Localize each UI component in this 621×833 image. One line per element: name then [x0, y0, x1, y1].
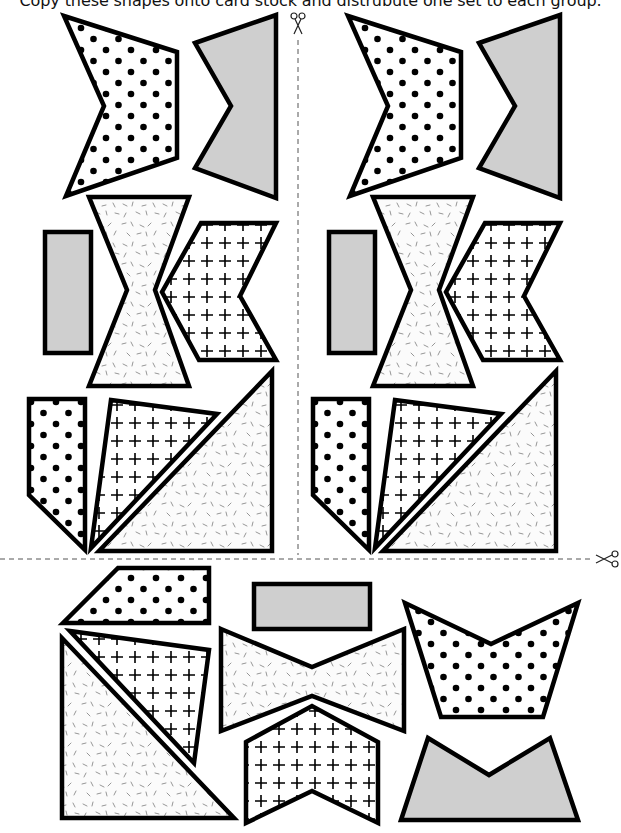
scissors-icon — [291, 13, 305, 34]
cross-chevron[interactable] — [162, 223, 276, 360]
cutout-sheet — [0, 0, 621, 833]
gray-arrow[interactable] — [479, 15, 560, 198]
dotted-pentagon[interactable] — [29, 399, 85, 550]
gray-arrow[interactable] — [195, 15, 276, 198]
set-top-left — [29, 15, 276, 551]
cross-chevron[interactable] — [446, 223, 560, 360]
gray-notched-trapezoid[interactable] — [401, 738, 578, 820]
dotted-trapezoid[interactable] — [63, 568, 209, 623]
gray-rectangle[interactable] — [254, 584, 370, 629]
dotted-arrow[interactable] — [64, 16, 177, 196]
dotted-arrow[interactable] — [348, 16, 461, 196]
gray-rectangle[interactable] — [45, 232, 91, 353]
dotted-pentagon[interactable] — [313, 399, 369, 550]
gray-rectangle[interactable] — [329, 232, 375, 353]
cross-chevron[interactable] — [246, 706, 378, 823]
dotted-notched-trapezoid[interactable] — [405, 603, 578, 717]
set-top-right — [313, 15, 560, 551]
set-bottom — [62, 568, 578, 823]
scissors-icon — [596, 551, 618, 567]
